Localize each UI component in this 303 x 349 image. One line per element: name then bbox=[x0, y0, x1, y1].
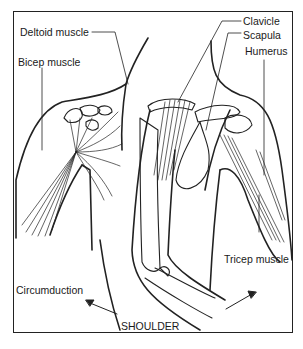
label-deltoid-muscle: Deltoid muscle bbox=[20, 26, 89, 38]
left-muscle-fibers bbox=[22, 112, 122, 236]
label-circumduction: Circumduction bbox=[16, 284, 83, 296]
middle-bones bbox=[140, 99, 215, 318]
label-clavicle: Clavicle bbox=[243, 15, 280, 27]
right-muscle-fibers bbox=[220, 135, 285, 242]
middle-muscle-fibers bbox=[154, 100, 190, 180]
label-scapula: Scapula bbox=[243, 29, 281, 41]
label-humerus: Humerus bbox=[245, 45, 288, 57]
diagram-title: SHOULDER bbox=[121, 320, 179, 332]
label-tricep-muscle: Tricep muscle bbox=[224, 253, 289, 265]
label-bicep-muscle: Bicep muscle bbox=[18, 56, 80, 68]
